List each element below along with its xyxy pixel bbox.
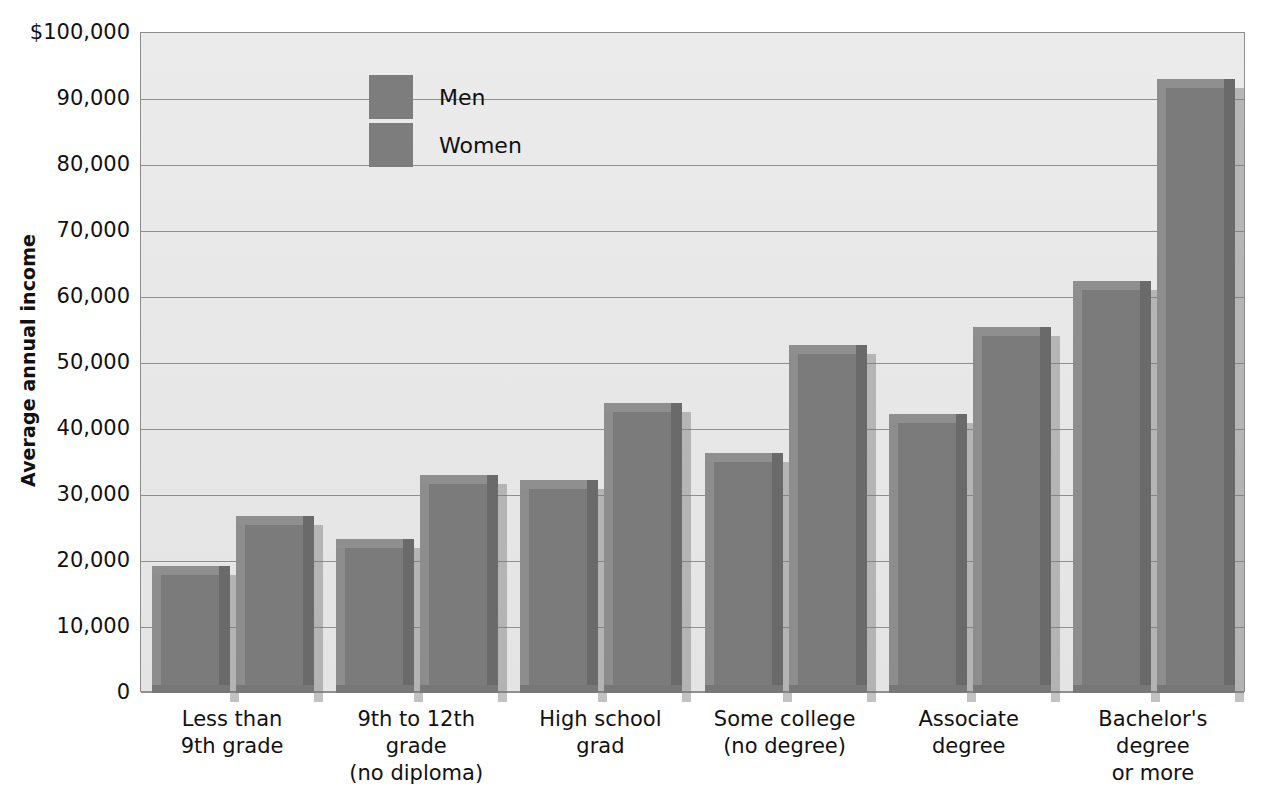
- bar: [889, 414, 967, 693]
- bar-bevel-bottom: [420, 685, 498, 693]
- bar-bevel-bottom: [889, 685, 967, 693]
- bar: [973, 327, 1051, 693]
- x-axis-tick-label: Associatedegree: [877, 706, 1061, 760]
- bar: [520, 480, 598, 693]
- bar-bevel-left: [336, 539, 345, 693]
- bar-bevel-left: [973, 327, 982, 693]
- bar-bevel-left: [520, 480, 529, 693]
- legend-label: Men: [439, 85, 485, 110]
- x-axis-tick-label-line: Less than: [140, 706, 324, 733]
- bar-bevel-right: [856, 345, 867, 693]
- y-axis-tick-label: 50,000: [0, 350, 130, 374]
- legend-label: Women: [439, 133, 522, 158]
- bar-bevel-right: [671, 403, 682, 693]
- bar-bevel-bottom: [973, 685, 1051, 693]
- bar: [420, 475, 498, 693]
- bar-bevel-right: [219, 566, 230, 693]
- bar-bevel-left: [1073, 281, 1082, 694]
- bar-bevel-right: [1224, 79, 1235, 693]
- bar-bevel-left: [236, 516, 245, 693]
- bar: [152, 566, 230, 693]
- bar-bevel-bottom: [1157, 685, 1235, 693]
- bar-bevel-right: [487, 475, 498, 693]
- bar-bevel-left: [604, 403, 613, 693]
- bar-shadow: [1235, 88, 1244, 702]
- y-axis-tick-label: 60,000: [0, 284, 130, 308]
- y-axis-tick-label: 80,000: [0, 152, 130, 176]
- y-axis-tick-label: 70,000: [0, 218, 130, 242]
- bar-bevel-bottom: [604, 685, 682, 693]
- x-axis-tick-label-line: 9th to 12th: [324, 706, 508, 733]
- bar-bevel-right: [303, 516, 314, 693]
- bar-bevel-right: [1040, 327, 1051, 693]
- x-axis-tick-label-line: degree: [877, 733, 1061, 760]
- bar-shadow: [1051, 336, 1060, 702]
- bar-bevel-bottom: [1073, 685, 1151, 693]
- y-axis-tick-label: 40,000: [0, 416, 130, 440]
- bar-bevel-bottom: [705, 685, 783, 693]
- bar-bevel-bottom: [336, 685, 414, 693]
- x-axis-tick-label-line: or more: [1061, 760, 1245, 787]
- x-axis-tick-label-line: High school: [508, 706, 692, 733]
- x-axis-tick-label-line: Associate: [877, 706, 1061, 733]
- gridline: [141, 99, 1244, 100]
- bar-bevel-left: [420, 475, 429, 693]
- bar-shadow: [682, 412, 691, 702]
- y-axis-tick-label: 10,000: [0, 614, 130, 638]
- legend-item: Men: [369, 73, 599, 121]
- bar-bevel-left: [1157, 79, 1166, 693]
- bar-bevel-right: [1140, 281, 1151, 694]
- bar: [236, 516, 314, 693]
- bar-bevel-right: [772, 453, 783, 693]
- bar: [604, 403, 682, 693]
- gridline: [141, 231, 1244, 232]
- legend-swatch: [369, 75, 413, 119]
- x-axis-tick-label: 9th to 12thgrade(no diploma): [324, 706, 508, 787]
- x-axis-tick-label-line: Bachelor's: [1061, 706, 1245, 733]
- bar-bevel-left: [705, 453, 714, 693]
- y-axis-tick-label: 20,000: [0, 548, 130, 572]
- gridline: [141, 165, 1244, 166]
- x-axis-tick-label-line: degree: [1061, 733, 1245, 760]
- bar-bevel-left: [889, 414, 898, 693]
- bar-bevel-right: [587, 480, 598, 693]
- bar-bevel-bottom: [152, 685, 230, 693]
- bar: [789, 345, 867, 693]
- bar-bevel-left: [789, 345, 798, 693]
- x-axis-tick-label-line: (no degree): [693, 733, 877, 760]
- bar-shadow: [314, 525, 323, 702]
- bar: [336, 539, 414, 693]
- plot-area: MenWomen: [140, 32, 1245, 692]
- x-axis-tick-label-line: grade: [324, 733, 508, 760]
- x-axis-tick-label-line: Some college: [693, 706, 877, 733]
- bar-bevel-bottom: [520, 685, 598, 693]
- x-axis-tick-label-line: grad: [508, 733, 692, 760]
- x-axis-tick-label: Some college(no degree): [693, 706, 877, 760]
- x-axis-tick-label-line: (no diploma): [324, 760, 508, 787]
- x-axis-tick-label: Bachelor'sdegreeor more: [1061, 706, 1245, 787]
- x-axis-tick-label-line: 9th grade: [140, 733, 324, 760]
- bar: [1157, 79, 1235, 693]
- bar: [1073, 281, 1151, 694]
- y-axis-tick-label: 90,000: [0, 86, 130, 110]
- bar-bevel-right: [403, 539, 414, 693]
- x-axis-tick-label: Less than9th grade: [140, 706, 324, 760]
- x-axis-tick-label: High schoolgrad: [508, 706, 692, 760]
- chart-legend: MenWomen: [369, 73, 599, 169]
- bar-shadow: [867, 354, 876, 702]
- y-axis-tick-label: 30,000: [0, 482, 130, 506]
- y-axis-tick-label: $100,000: [0, 20, 130, 44]
- bar-shadow: [498, 484, 507, 702]
- y-axis-tick-label: 0: [0, 680, 130, 704]
- bar-bevel-bottom: [789, 685, 867, 693]
- legend-swatch: [369, 123, 413, 167]
- bar: [705, 453, 783, 693]
- bar-bevel-bottom: [236, 685, 314, 693]
- bar-chart: Average annual income 010,00020,00030,00…: [0, 0, 1267, 806]
- legend-item: Women: [369, 121, 599, 169]
- bar-bevel-left: [152, 566, 161, 693]
- bar-bevel-right: [956, 414, 967, 693]
